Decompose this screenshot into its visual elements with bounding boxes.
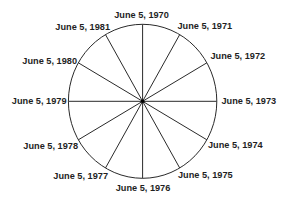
label-1979: June 5, 1979	[12, 96, 67, 106]
spoke-1971	[143, 35, 180, 102]
hub-dot	[141, 100, 145, 104]
spoke-1980	[78, 63, 142, 102]
date-wheel-diagram: June 5, 1970 June 5, 1971 June 5, 1972 J…	[0, 0, 288, 202]
spoke-1978	[78, 101, 142, 140]
label-1973: June 5, 1973	[222, 96, 277, 106]
label-1978: June 5, 1978	[23, 141, 78, 151]
label-1975: June 5, 1975	[178, 170, 233, 180]
spoke-1974	[143, 101, 207, 140]
label-1970: June 5, 1970	[114, 10, 169, 20]
label-1971: June 5, 1971	[178, 21, 233, 31]
spoke-1972	[143, 63, 207, 102]
spoke-1977	[106, 101, 143, 168]
spoke-1981	[106, 35, 143, 102]
label-1980: June 5, 1980	[22, 56, 77, 66]
label-1981: June 5, 1981	[55, 22, 110, 32]
spoke-1975	[143, 101, 180, 168]
label-1974: June 5, 1974	[208, 140, 264, 150]
label-1976: June 5, 1976	[116, 183, 171, 193]
label-1977: June 5, 1977	[53, 171, 108, 181]
label-1972: June 5, 1972	[211, 51, 266, 61]
